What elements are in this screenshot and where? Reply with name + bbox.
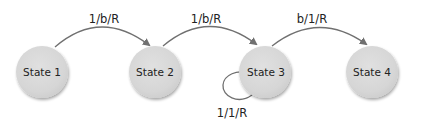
- state-label: State 2: [136, 66, 174, 78]
- transition-s1-s2: 1/b/R: [55, 12, 149, 47]
- transition-label: 1/b/R: [191, 12, 221, 26]
- state-label: State 4: [353, 66, 391, 78]
- transition-label: 1/b/R: [89, 12, 119, 26]
- transition-s3-s4: b/1/R: [272, 12, 366, 46]
- arrow-icon: [163, 26, 256, 46]
- arrow-icon: [272, 27, 366, 46]
- diagram-canvas: 1/b/R 1/b/R b/1/R 1/1/R State 1 State 2: [0, 0, 426, 129]
- state-label: State 1: [23, 66, 61, 78]
- transition-label: b/1/R: [297, 12, 327, 26]
- state-label: State 3: [247, 66, 285, 78]
- arrow-icon: [55, 27, 149, 47]
- transition-s2-s3: 1/b/R: [163, 12, 256, 46]
- transition-label: 1/1/R: [217, 106, 247, 120]
- state-diagram: 1/b/R 1/b/R b/1/R 1/1/R State 1 State 2: [0, 0, 426, 129]
